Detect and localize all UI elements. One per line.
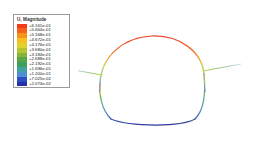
strut-upper-right <box>203 64 241 71</box>
legend-entry-list: +6.161e-01+5.664e-01+5.168e-01+4.672e-01… <box>17 24 67 87</box>
contour-plot <box>78 0 256 143</box>
legend-color-swatch <box>17 82 27 87</box>
legend-value-label: +2.074e-02 <box>29 82 51 87</box>
legend-entry: +2.074e-02 <box>17 82 67 87</box>
contour-legend: U, Magnitude +6.161e-01+5.664e-01+5.168e… <box>13 14 70 88</box>
contour-edge-right-flank <box>195 74 205 119</box>
contour-edge-bottom <box>111 119 195 125</box>
contour-edge-crown <box>100 36 204 84</box>
contour-edge-left-flank <box>100 84 111 119</box>
strut-upper-left <box>78 70 102 75</box>
